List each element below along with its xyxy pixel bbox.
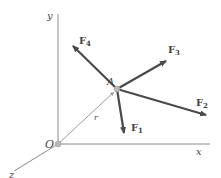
force-label-f2: F2: [196, 97, 208, 110]
point-a-label: A: [106, 76, 114, 87]
diagram-canvas: y x z O A r F4 F3 F2 F1: [0, 0, 221, 178]
force-label-f4: F4: [79, 35, 91, 48]
x-axis-label: x: [196, 146, 202, 157]
origin-label: O: [45, 138, 54, 151]
force-diagram: y x z O A r F4 F3 F2 F1: [0, 0, 221, 178]
point-a: [114, 86, 120, 92]
z-axis-label: z: [8, 169, 15, 178]
force-arrow-f2: [117, 89, 206, 115]
force-arrow-f1: [117, 89, 124, 133]
origin-point: [55, 141, 61, 147]
force-arrow-f3: [117, 61, 166, 89]
y-axis-label: y: [46, 10, 53, 21]
force-label-f3: F3: [168, 44, 180, 57]
force-label-f1: F1: [131, 122, 143, 135]
position-vector-r: [58, 92, 114, 144]
position-vector-label: r: [94, 113, 99, 122]
